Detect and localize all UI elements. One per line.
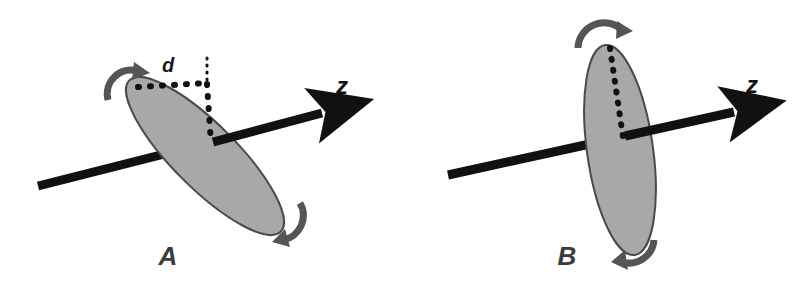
panel-label-b: B bbox=[558, 241, 577, 271]
panel-label-a: A bbox=[158, 241, 178, 271]
canvas-background bbox=[0, 0, 800, 286]
diagram-canvas: d z A bbox=[0, 0, 800, 286]
z-axis-label: z bbox=[335, 72, 348, 99]
figure-root: d z A bbox=[0, 0, 800, 286]
dimension-label-d: d bbox=[162, 54, 175, 76]
z-axis-label: z bbox=[745, 71, 758, 98]
